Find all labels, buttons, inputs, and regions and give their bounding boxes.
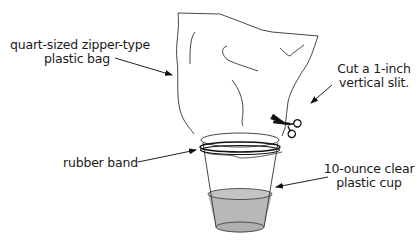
- label-cut-slit: Cut a 1-inch vertical slit.: [334, 62, 414, 90]
- label-cup-line2: plastic cup: [322, 176, 416, 190]
- scissors-icon: [267, 108, 302, 139]
- label-bag-line1: quart-sized zipper-type: [10, 38, 144, 52]
- label-rubber-band: rubber band: [63, 156, 138, 170]
- label-plastic-cup: 10-ounce clear plastic cup: [322, 162, 416, 190]
- diagram-canvas: quart-sized zipper-type plastic bag Cut …: [0, 0, 417, 244]
- rubber-band: [200, 142, 280, 155]
- plastic-bag: [177, 13, 318, 136]
- arrow-band: [138, 150, 196, 162]
- label-bag-line2: plastic bag: [10, 52, 144, 66]
- label-plastic-bag: quart-sized zipper-type plastic bag: [10, 38, 144, 66]
- label-slit-line2: vertical slit.: [334, 76, 414, 90]
- arrow-slit: [311, 85, 332, 103]
- label-cup-line1: 10-ounce clear: [322, 162, 416, 176]
- label-band-text: rubber band: [63, 155, 138, 170]
- arrow-cup: [276, 177, 328, 187]
- plastic-cup: [200, 133, 282, 233]
- label-slit-line1: Cut a 1-inch: [334, 62, 414, 76]
